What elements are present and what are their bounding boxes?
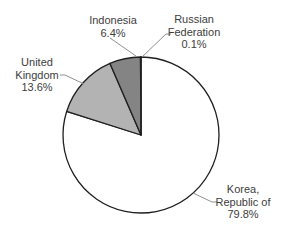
label-united-kingdom-pct: 13.6%: [15, 81, 58, 94]
label-indonesia-pct: 6.4%: [89, 27, 137, 40]
label-russian-federation-name-line2: Federation: [168, 26, 221, 39]
leader-line-russian-federation: [142, 34, 171, 57]
label-russian-federation-pct: 0.1%: [168, 38, 221, 51]
label-korea-name-line1: Korea,: [215, 183, 270, 196]
label-russian-federation-name-line1: Russian: [168, 13, 221, 26]
pie-chart-figure: Indonesia 6.4% Russian Federation 0.1% U…: [0, 0, 292, 230]
label-korea-pct: 79.8%: [215, 208, 270, 221]
label-united-kingdom-name-line2: Kingdom: [15, 69, 58, 82]
leader-line-korea: [193, 193, 217, 202]
leader-line-indonesia: [110, 38, 136, 56]
label-united-kingdom: United Kingdom 13.6%: [15, 56, 58, 94]
label-korea-name-line2: Republic of: [215, 196, 270, 209]
label-indonesia-name: Indonesia: [89, 14, 137, 27]
pie-slices: [63, 57, 219, 213]
label-united-kingdom-name-line1: United: [15, 56, 58, 69]
label-korea: Korea, Republic of 79.8%: [215, 183, 270, 221]
label-indonesia: Indonesia 6.4%: [89, 14, 137, 39]
leader-line-united-kingdom: [60, 75, 84, 84]
label-russian-federation: Russian Federation 0.1%: [168, 13, 221, 51]
